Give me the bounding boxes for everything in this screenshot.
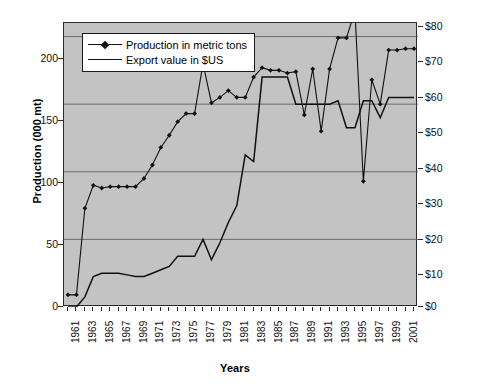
legend-label: Export value in $US (126, 54, 223, 66)
x-tick-mark (219, 307, 220, 311)
x-tick-label: 1993 (341, 321, 351, 343)
x-tick-mark (236, 307, 237, 311)
left-tick-label: 0 (18, 301, 58, 312)
right-tick-label: $70 (425, 56, 465, 67)
right-tick-label: $50 (425, 127, 465, 138)
x-tick-mark (354, 307, 355, 311)
data-point-marker (82, 206, 87, 211)
x-tick-mark (405, 307, 406, 311)
left-tick-mark (58, 306, 63, 307)
right-tick-label: $30 (425, 198, 465, 209)
right-tick-mark (418, 61, 423, 62)
legend-item-production: Production in metric tons (88, 37, 247, 52)
right-tick-mark (418, 274, 423, 275)
data-point-marker (361, 179, 366, 184)
data-point-marker (302, 113, 307, 118)
x-tick-mark (135, 307, 136, 311)
x-tick-label: 1973 (172, 321, 182, 343)
data-point-marker (125, 184, 130, 189)
data-point-marker (395, 48, 400, 53)
data-point-marker (293, 69, 298, 74)
x-tick-label: 1963 (88, 321, 98, 343)
x-tick-mark (362, 307, 363, 311)
line-marker-icon (88, 39, 122, 51)
right-tick-label: $0 (425, 301, 465, 312)
x-tick-mark (329, 307, 330, 311)
chart-legend: Production in metric tons Export value i… (82, 33, 255, 72)
x-tick-label: 1999 (392, 321, 402, 343)
legend-item-export-value: Export value in $US (88, 52, 247, 67)
x-tick-mark (118, 307, 119, 311)
x-axis-title: Years (0, 362, 470, 374)
x-tick-mark (177, 307, 178, 311)
data-point-marker (99, 186, 104, 191)
x-tick-mark (151, 307, 152, 311)
right-tick-mark (418, 239, 423, 240)
data-point-marker (116, 184, 121, 189)
x-tick-label: 1985 (274, 321, 284, 343)
x-tick-mark (160, 307, 161, 311)
right-tick-label: $40 (425, 163, 465, 174)
right-tick-label: $80 (425, 21, 465, 32)
x-tick-mark (253, 307, 254, 311)
right-tick-label: $20 (425, 234, 465, 245)
data-point-marker (412, 46, 417, 51)
data-point-marker (74, 292, 79, 297)
data-point-marker (319, 129, 324, 134)
x-tick-mark (244, 307, 245, 311)
x-tick-mark (75, 307, 76, 311)
data-point-marker (386, 48, 391, 53)
x-tick-label: 1995 (358, 321, 368, 343)
data-point-marker (310, 67, 315, 72)
data-point-marker (192, 111, 197, 116)
x-tick-mark (388, 307, 389, 311)
chart-figure: 200 150 100 50 0 $80 $70 $60 $50 $40 $30… (0, 0, 501, 387)
x-tick-mark (286, 307, 287, 311)
x-tick-mark (337, 307, 338, 311)
x-tick-label: 1965 (105, 321, 115, 343)
x-tick-label: 1977 (206, 321, 216, 343)
x-tick-label: 1975 (189, 321, 199, 343)
y-axis-left-title: Production (000 mt) (31, 51, 43, 251)
x-tick-mark (168, 307, 169, 311)
x-tick-label: 1987 (290, 321, 300, 343)
x-tick-label: 1989 (307, 321, 317, 343)
x-tick-mark (101, 307, 102, 311)
x-tick-mark (185, 307, 186, 311)
x-tick-label: 1997 (375, 321, 385, 343)
x-tick-mark (303, 307, 304, 311)
x-tick-mark (379, 307, 380, 311)
x-tick-mark (126, 307, 127, 311)
right-tick-mark (418, 26, 423, 27)
data-point-marker (243, 95, 248, 100)
x-tick-label: 1979 (223, 321, 233, 343)
x-tick-label: 1969 (139, 321, 149, 343)
data-point-marker (369, 77, 374, 82)
data-point-marker (285, 71, 290, 76)
data-point-marker (108, 184, 113, 189)
x-tick-mark (109, 307, 110, 311)
data-point-marker (91, 183, 96, 188)
data-point-marker (66, 292, 71, 297)
x-tick-mark (67, 307, 68, 311)
x-tick-mark (312, 307, 313, 311)
x-tick-mark (84, 307, 85, 311)
x-tick-mark (278, 307, 279, 311)
right-tick-label: $60 (425, 92, 465, 103)
data-point-marker (268, 68, 273, 73)
right-tick-mark (418, 203, 423, 204)
x-tick-label: 1983 (257, 321, 267, 343)
legend-label: Production in metric tons (126, 39, 247, 51)
x-tick-label: 1967 (122, 321, 132, 343)
right-tick-mark (418, 97, 423, 98)
x-tick-mark (92, 307, 93, 311)
x-tick-mark (194, 307, 195, 311)
x-tick-label: 1961 (71, 321, 81, 343)
x-tick-label: 2001 (409, 321, 419, 343)
x-tick-label: 1981 (240, 321, 250, 343)
x-tick-mark (346, 307, 347, 311)
x-tick-mark (371, 307, 372, 311)
right-tick-mark (418, 168, 423, 169)
data-point-marker (327, 67, 332, 72)
x-tick-mark (211, 307, 212, 311)
